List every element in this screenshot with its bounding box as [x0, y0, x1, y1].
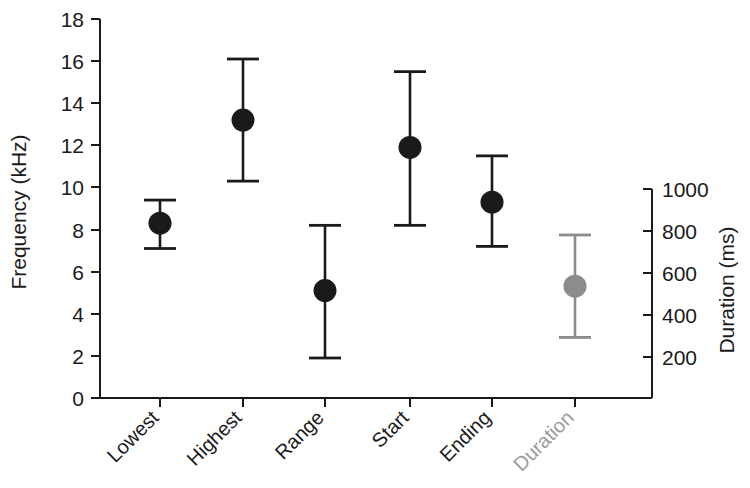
left-tick-label-0: 0 [72, 387, 84, 410]
right-tick-label-400: 400 [662, 304, 697, 327]
x-axis: Lowest Highest Range Start Ending Durati… [100, 398, 652, 475]
mean-marker [564, 275, 587, 298]
left-tick-label-12: 12 [61, 134, 84, 157]
left-tick-label-6: 6 [72, 261, 84, 284]
x-label-ending: Ending [435, 406, 495, 466]
mean-marker [232, 109, 255, 132]
left-axis: 18 16 14 12 10 8 6 4 2 0 Frequency (kHz) [7, 8, 100, 410]
left-axis-title: Frequency (kHz) [7, 134, 30, 289]
right-axis: 1000 800 600 400 200 Duration (ms) [643, 178, 738, 398]
x-label-start: Start [367, 406, 413, 452]
right-axis-title: Duration (ms) [715, 226, 738, 353]
left-tick-label-16: 16 [61, 50, 84, 73]
left-tick-label-14: 14 [61, 92, 85, 115]
data-point-duration [559, 235, 591, 337]
mean-marker [149, 212, 172, 235]
mean-marker [481, 191, 504, 214]
right-tick-label-1000: 1000 [662, 178, 709, 201]
right-tick-label-800: 800 [662, 220, 697, 243]
mean-marker [314, 279, 337, 302]
mean-marker [399, 136, 422, 159]
left-tick-label-10: 10 [61, 176, 84, 199]
data-point-start [394, 72, 426, 226]
left-tick-label-18: 18 [61, 8, 84, 31]
left-tick-label-4: 4 [72, 303, 84, 326]
data-points-layer [144, 59, 591, 358]
plot-area: 18 16 14 12 10 8 6 4 2 0 Frequency (kHz)… [0, 0, 750, 488]
data-point-ending [476, 156, 508, 247]
data-point-lowest [144, 200, 176, 248]
right-tick-label-200: 200 [662, 346, 697, 369]
x-label-highest: Highest [182, 406, 246, 470]
left-tick-label-2: 2 [72, 345, 84, 368]
left-tick-label-8: 8 [72, 219, 84, 242]
x-label-lowest: Lowest [102, 406, 163, 467]
x-label-duration: Duration [509, 406, 578, 475]
data-point-range [309, 225, 341, 358]
error-bar-chart-figure: 18 16 14 12 10 8 6 4 2 0 Frequency (kHz)… [0, 0, 750, 488]
x-label-range: Range [271, 406, 328, 463]
right-tick-label-600: 600 [662, 262, 697, 285]
data-point-highest [227, 59, 259, 181]
